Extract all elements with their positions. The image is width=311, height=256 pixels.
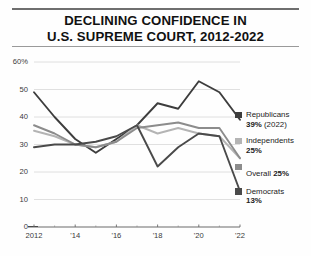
legend-value: 25%: [273, 169, 289, 178]
legend-item: Democrats13%: [235, 187, 311, 207]
y-tick-label: 0: [2, 222, 28, 231]
legend-swatch-icon: [235, 138, 242, 145]
y-tick-label: 30: [2, 140, 28, 149]
gridlines: [34, 62, 240, 200]
legend-value: 39% (2022): [246, 120, 311, 130]
x-axis-line: [28, 227, 240, 228]
chart-legend: Republicans39% (2022)Independents25%Over…: [235, 110, 311, 213]
legend-label: Overall 25%: [246, 169, 289, 178]
x-tick-label: '18: [143, 231, 173, 240]
x-tick-label: '16: [101, 231, 131, 240]
legend-item: Overall 25%: [235, 162, 311, 180]
legend-swatch-icon: [235, 164, 242, 171]
x-tick-label: '20: [184, 231, 214, 240]
legend-item: Independents25%: [235, 136, 311, 156]
legend-label: Republicans: [246, 110, 311, 120]
legend-label: Democrats: [246, 187, 311, 197]
y-tick-label: 50: [2, 85, 28, 94]
data-series-group: [34, 81, 240, 191]
chart-card: DECLINING CONFIDENCE IN U.S. SUPREME COU…: [0, 0, 311, 256]
x-tick-label: 2012: [19, 231, 49, 240]
y-tick-label: 20: [2, 167, 28, 176]
legend-label: Independents: [246, 136, 311, 146]
legend-swatch-icon: [235, 188, 242, 195]
legend-value: 25%: [246, 146, 311, 156]
legend-value: 13%: [246, 196, 311, 206]
y-tick-label: 10: [2, 195, 28, 204]
x-tick-label: '14: [60, 231, 90, 240]
y-tick-label: 40: [2, 112, 28, 121]
x-tick-label: '22: [225, 231, 255, 240]
legend-swatch-icon: [235, 112, 242, 119]
legend-item: Republicans39% (2022): [235, 110, 311, 130]
y-tick-label: 60%: [2, 57, 28, 66]
